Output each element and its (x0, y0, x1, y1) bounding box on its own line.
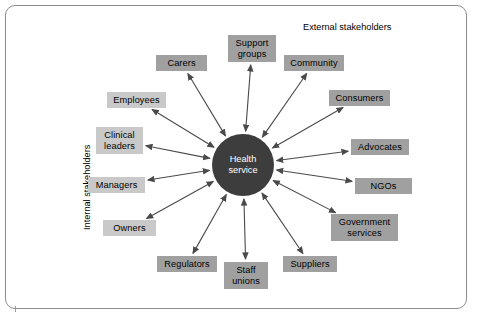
diagram-canvas: Internal stakeholders External stakehold… (0, 0, 482, 319)
arrow-center-to-owners (147, 182, 214, 219)
arrow-center-to-suppliers (262, 193, 303, 253)
stakeholder-node-support: Support groups (228, 35, 276, 62)
stakeholder-node-regulators: Regulators (157, 256, 217, 272)
stakeholder-node-community: Community (284, 55, 344, 71)
stakeholder-node-staffunions: Staff unions (224, 262, 268, 289)
arrow-center-to-support (246, 65, 251, 131)
stakeholder-node-carers: Carers (156, 55, 207, 71)
arrow-center-to-employees (152, 110, 214, 148)
center-node-health-service: Health service (212, 134, 274, 196)
stakeholder-node-ngos: NGOs (355, 178, 412, 194)
stakeholder-node-clinical: Clinical leaders (96, 127, 143, 154)
stakeholder-node-employees: Employees (107, 92, 166, 108)
arrow-center-to-advocates (277, 151, 348, 160)
arrow-center-to-managers (148, 170, 209, 180)
arrow-center-to-clinical (146, 146, 210, 159)
stakeholder-node-managers: Managers (88, 177, 145, 193)
arrow-center-to-community (262, 73, 306, 137)
arrow-center-to-carers (188, 74, 226, 136)
arrow-center-to-regulators (193, 195, 226, 254)
arrow-center-to-ngos (277, 170, 352, 181)
arrow-center-to-government (273, 181, 335, 213)
stakeholder-node-government: Government services (331, 214, 398, 241)
stakeholder-node-consumers: Consumers (329, 90, 390, 106)
arrow-center-to-staffunions (244, 199, 246, 259)
stakeholder-node-suppliers: Suppliers (283, 256, 337, 272)
stakeholder-node-advocates: Advocates (351, 139, 409, 155)
arrow-center-to-consumers (272, 108, 343, 149)
stakeholder-node-owners: Owners (103, 220, 156, 236)
section-label-external: External stakeholders (303, 22, 391, 32)
